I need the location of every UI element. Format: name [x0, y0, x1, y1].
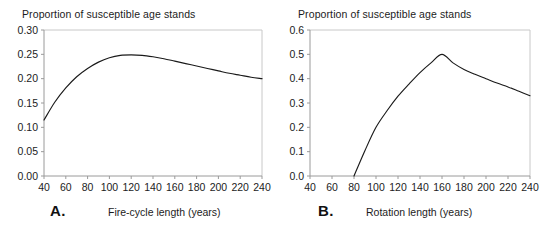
y-tick-label: 0.4	[289, 72, 304, 84]
x-tick-label: 180	[455, 181, 473, 193]
y-tick-label: 0.2	[289, 121, 304, 133]
panel-a-x-axis-title: Fire-cycle length (years)	[108, 206, 221, 218]
y-tick-label: 0.00	[18, 170, 39, 182]
y-tick-label: 0.6	[289, 24, 304, 36]
x-tick-label: 140	[144, 181, 162, 193]
x-tick-label: 200	[210, 181, 228, 193]
data-series-line	[354, 54, 530, 176]
x-tick-label: 160	[166, 181, 184, 193]
x-tick-label: 100	[101, 181, 119, 193]
x-tick-label: 120	[389, 181, 407, 193]
panel-b: Proportion of susceptible age stands 0.0…	[276, 0, 552, 234]
x-tick-label: 240	[521, 181, 539, 193]
y-tick-label: 0.10	[18, 121, 39, 133]
x-tick-label: 60	[60, 181, 72, 193]
y-tick-label: 0.15	[18, 97, 39, 109]
x-tick-label: 220	[231, 181, 249, 193]
y-tick-label: 0.30	[18, 24, 39, 36]
panel-b-x-axis-title: Rotation length (years)	[366, 206, 472, 218]
panel-a-plot: 0.000.050.100.150.200.250.30406080100120…	[0, 0, 276, 234]
x-tick-label: 60	[326, 181, 338, 193]
y-tick-label: 0.05	[18, 145, 39, 157]
x-tick-label: 40	[38, 181, 50, 193]
panel-b-letter: B.	[318, 202, 334, 219]
panel-b-plot: 0.00.10.20.30.40.50.64060801001201401601…	[276, 0, 552, 234]
x-tick-label: 100	[367, 181, 385, 193]
panel-a: Proportion of susceptible age stands 0.0…	[0, 0, 276, 234]
x-tick-label: 220	[499, 181, 517, 193]
y-tick-label: 0.20	[18, 72, 39, 84]
y-tick-label: 0.5	[289, 48, 304, 60]
y-tick-label: 0.25	[18, 48, 39, 60]
x-tick-label: 80	[348, 181, 360, 193]
y-tick-label: 0.0	[289, 170, 304, 182]
x-tick-label: 80	[82, 181, 94, 193]
data-series-line	[44, 55, 262, 120]
figure-two-panel-line-charts: Proportion of susceptible age stands 0.0…	[0, 0, 552, 234]
x-tick-label: 140	[411, 181, 429, 193]
x-tick-label: 160	[433, 181, 451, 193]
x-tick-label: 180	[188, 181, 206, 193]
y-tick-label: 0.1	[289, 145, 304, 157]
x-tick-label: 120	[122, 181, 140, 193]
x-tick-label: 200	[477, 181, 495, 193]
panel-a-letter: A.	[50, 202, 66, 219]
x-tick-label: 240	[253, 181, 271, 193]
y-tick-label: 0.3	[289, 97, 304, 109]
x-tick-label: 40	[304, 181, 316, 193]
